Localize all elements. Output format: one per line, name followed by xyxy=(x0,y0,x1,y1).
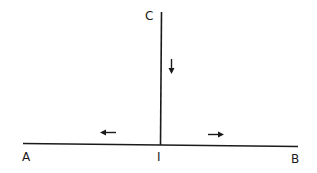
vertical-line-c-i xyxy=(161,12,162,145)
flow-diagram: C A I B xyxy=(0,0,317,173)
label-a: A xyxy=(22,150,31,164)
label-c: C xyxy=(145,9,153,23)
right-arrow-icon xyxy=(208,132,224,138)
down-arrow-icon xyxy=(169,59,175,74)
label-i: I xyxy=(157,150,161,164)
label-b: B xyxy=(291,152,299,166)
left-arrow-icon xyxy=(100,130,116,136)
